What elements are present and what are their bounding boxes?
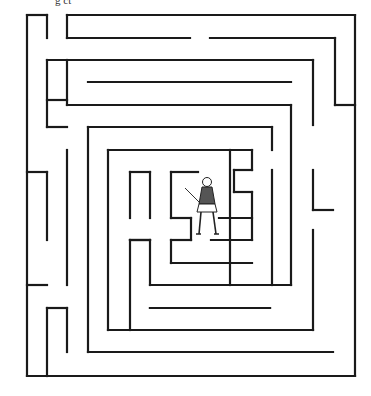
maze-board bbox=[0, 0, 371, 396]
maze-walls bbox=[27, 15, 355, 376]
